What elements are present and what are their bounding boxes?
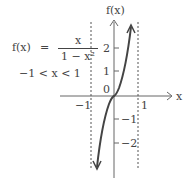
fraction-bar	[58, 48, 98, 49]
x-tick-label-1: 1	[141, 100, 148, 111]
formula-denominator: 1 − x²	[58, 50, 98, 63]
formula-numerator: x	[58, 34, 98, 47]
formula-equals: =	[40, 41, 49, 54]
y-tick-label-neg2: −2	[121, 138, 137, 149]
formula-domain: −1 < x < 1	[19, 68, 81, 79]
formula-lhs: f(x)	[12, 41, 31, 54]
graph	[0, 0, 191, 185]
y-tick-label-1: 1	[103, 66, 110, 77]
x-tick-label-neg1: −1	[75, 100, 91, 111]
x-axis-label: x	[176, 91, 182, 102]
y-axis-label: f(x)	[106, 5, 125, 16]
y-tick-label-2: 2	[103, 43, 110, 54]
y-tick-label-0: 0	[103, 84, 110, 95]
y-tick-label-neg1: −1	[121, 114, 137, 125]
formula-fraction: x 1 − x²	[58, 34, 98, 63]
